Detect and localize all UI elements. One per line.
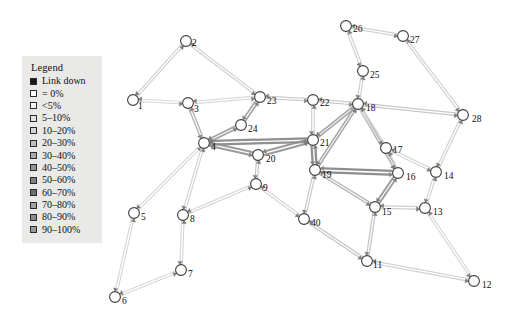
network-link (138, 97, 183, 106)
network-link (243, 101, 259, 122)
legend-label: 80–90% (42, 212, 75, 222)
node-label: 25 (370, 70, 380, 80)
network-link (372, 259, 469, 283)
network-link (365, 212, 378, 256)
legend-label: 20–30% (42, 138, 75, 148)
node-label: 11 (373, 260, 382, 270)
node-label: 2 (192, 38, 197, 48)
legend-entry: 70–80% (30, 199, 93, 211)
node-label: 5 (141, 212, 146, 222)
node-label: 8 (190, 214, 195, 224)
network-node-6[interactable]: 6 (110, 292, 127, 307)
legend-entry: = 0% (30, 87, 93, 99)
network-link (424, 177, 437, 203)
links-layer (113, 24, 472, 296)
legend-swatch (30, 177, 37, 184)
network-node-22[interactable]: 22 (308, 95, 330, 109)
node-label: 15 (382, 207, 392, 217)
node-label: 27 (410, 35, 420, 45)
legend-swatch (30, 78, 37, 85)
legend-swatch (30, 189, 37, 196)
node-label: 13 (433, 207, 443, 217)
legend-swatch (30, 127, 37, 134)
legend-swatch (30, 226, 37, 233)
legend-swatch (30, 115, 37, 122)
legend-label: 70–80% (42, 200, 75, 210)
network-node-1[interactable]: 1 (128, 95, 143, 112)
network-link (119, 271, 177, 296)
network-link (135, 44, 183, 97)
legend-label: 30–40% (42, 151, 75, 161)
legend-entry: 40–50% (30, 162, 93, 174)
node-label: 6 (122, 296, 127, 306)
legend-title: Legend (31, 62, 93, 73)
network-node-7[interactable]: 7 (176, 265, 193, 280)
network-link (309, 105, 316, 135)
legend-entry: 10–20% (30, 125, 93, 137)
network-link (137, 146, 202, 210)
node-label: 20 (266, 154, 276, 164)
legend-swatch (30, 102, 37, 109)
node-label: 23 (267, 96, 277, 106)
node-label: 26 (353, 24, 363, 34)
network-link (190, 43, 257, 95)
legend-swatch (30, 202, 37, 209)
node-label: 3 (194, 104, 199, 114)
legend: Legend Link down= 0%<5%5–10%10–20%20–30%… (22, 56, 102, 243)
network-link (193, 96, 255, 104)
legend-swatch (30, 152, 37, 159)
node-label: 40 (311, 218, 321, 228)
legend-label: = 0% (42, 89, 63, 99)
network-link (405, 39, 460, 112)
legend-label: 90–100% (42, 225, 80, 235)
network-link (182, 148, 205, 210)
node-label: 16 (406, 172, 416, 182)
legend-swatch (30, 164, 37, 171)
network-node-11[interactable]: 11 (362, 256, 383, 271)
network-link (178, 220, 186, 265)
network-link (347, 30, 363, 67)
network-link (187, 185, 252, 214)
network-topology-figure: 1234567894011121314151617181920212223242… (0, 0, 520, 318)
network-link (316, 106, 355, 137)
network-node-9[interactable]: 9 (251, 179, 268, 194)
node-label: 18 (366, 103, 376, 113)
network-link (356, 76, 365, 99)
network-link (317, 108, 357, 166)
node-label: 9 (263, 183, 268, 193)
legend-rows: Link down= 0%<5%5–10%10–20%20–30%30–40%4… (30, 75, 93, 236)
legend-swatch (30, 140, 37, 147)
network-node-27[interactable]: 27 (398, 31, 420, 46)
network-link (253, 160, 261, 179)
node-label: 24 (248, 124, 258, 134)
node-label: 17 (393, 145, 403, 155)
legend-label: 5–10% (42, 113, 70, 123)
network-link (113, 218, 135, 292)
legend-swatch (30, 90, 37, 97)
node-label: 4 (211, 142, 216, 152)
node-label: 1 (138, 101, 143, 111)
legend-entry: 50–60% (30, 174, 93, 186)
network-link (436, 119, 462, 167)
legend-label: 60–70% (42, 188, 75, 198)
legend-swatch (30, 214, 37, 221)
legend-label: 40–50% (42, 163, 75, 173)
node-label: 21 (320, 138, 330, 148)
node-label: 7 (188, 269, 193, 279)
node-label: 12 (482, 280, 492, 290)
legend-entry: 20–30% (30, 137, 93, 149)
node-label: 28 (472, 114, 482, 124)
network-node-24[interactable]: 24 (236, 120, 258, 135)
legend-label: <5% (42, 101, 61, 111)
legend-entry: <5% (30, 100, 93, 112)
node-label: 19 (322, 170, 332, 180)
network-link (427, 211, 472, 277)
legend-entry: 30–40% (30, 149, 93, 161)
legend-entry: 80–90% (30, 211, 93, 223)
legend-label: Link down (42, 76, 86, 86)
network-link (302, 175, 316, 214)
network-node-12[interactable]: 12 (469, 276, 492, 291)
legend-label: 10–20% (42, 126, 75, 136)
legend-entry: 90–100% (30, 224, 93, 236)
node-label: 22 (320, 98, 330, 108)
